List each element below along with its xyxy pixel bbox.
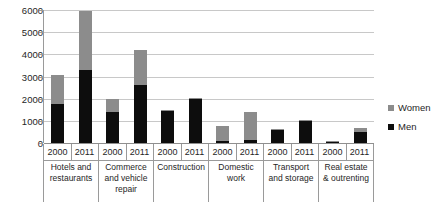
bar bbox=[271, 129, 284, 143]
bar bbox=[326, 141, 339, 143]
y-axis-tick-label: 3000 bbox=[7, 72, 43, 81]
category-column: 20002011Hotels and restaurants bbox=[44, 144, 99, 202]
bar-segment-men bbox=[299, 121, 312, 143]
legend-swatch-icon bbox=[388, 105, 394, 111]
bar-segment-men bbox=[326, 142, 339, 143]
bar-segment-men bbox=[79, 70, 92, 143]
year-label: 2011 bbox=[236, 144, 263, 160]
bar bbox=[51, 75, 64, 143]
year-label: 2000 bbox=[319, 144, 346, 160]
bar bbox=[161, 110, 174, 143]
bar-segment-men bbox=[134, 85, 147, 143]
year-row: 20002011 bbox=[44, 144, 98, 160]
bar bbox=[299, 120, 312, 143]
year-label: 2011 bbox=[126, 144, 153, 160]
bar-segment-women bbox=[216, 126, 229, 140]
year-row: 20002011 bbox=[99, 144, 153, 160]
year-row: 20002011 bbox=[154, 144, 208, 160]
category-label: Domestic work bbox=[210, 162, 262, 184]
category-column: 20002011Commerce and vehicle repair bbox=[99, 144, 154, 202]
year-label: 2000 bbox=[99, 144, 126, 160]
y-axis-tick-label: 0 bbox=[7, 139, 43, 148]
bar-segment-men bbox=[354, 132, 367, 143]
y-axis: 0100020003000400050006000 bbox=[0, 10, 43, 143]
year-row-divider bbox=[154, 160, 208, 161]
bar-segment-women bbox=[51, 75, 64, 104]
bar-segment-men bbox=[106, 112, 119, 143]
bar-segment-men bbox=[51, 104, 64, 143]
legend-label: Women bbox=[398, 103, 431, 113]
year-label: 2011 bbox=[291, 144, 318, 160]
category-column: 20002011Construction bbox=[154, 144, 209, 202]
bar bbox=[354, 128, 367, 143]
category-column: 20002011Real estate & outrenting bbox=[319, 144, 374, 202]
y-axis-tick-label: 1000 bbox=[7, 116, 43, 125]
bar-segment-women bbox=[106, 99, 119, 112]
year-row-divider bbox=[264, 160, 318, 161]
bars-layer bbox=[44, 10, 374, 143]
year-label: 2011 bbox=[346, 144, 373, 160]
year-row-divider bbox=[209, 160, 263, 161]
bar bbox=[134, 50, 147, 143]
y-axis-tick-label: 4000 bbox=[7, 50, 43, 59]
category-label: Real estate & outrenting bbox=[320, 162, 372, 184]
year-row: 20002011 bbox=[319, 144, 373, 160]
bar-segment-women bbox=[79, 11, 92, 70]
bar bbox=[244, 112, 257, 143]
bar bbox=[106, 99, 119, 143]
bar bbox=[189, 98, 202, 143]
year-row-divider bbox=[319, 160, 373, 161]
category-column: 20002011Transport and storage bbox=[264, 144, 319, 202]
year-row-divider bbox=[44, 160, 98, 161]
year-label: 2011 bbox=[181, 144, 208, 160]
plot-area bbox=[43, 10, 374, 143]
legend-item: Women bbox=[388, 100, 446, 116]
legend-item: Men bbox=[388, 119, 446, 135]
year-label: 2000 bbox=[209, 144, 236, 160]
legend-label: Men bbox=[398, 122, 416, 132]
bar-segment-men bbox=[161, 111, 174, 143]
y-axis-tick-label: 2000 bbox=[7, 94, 43, 103]
category-label: Transport and storage bbox=[265, 162, 317, 184]
category-column: 20002011Domestic work bbox=[209, 144, 264, 202]
bar-segment-men bbox=[216, 141, 229, 143]
category-label: Construction bbox=[155, 162, 207, 173]
bar-segment-men bbox=[244, 140, 257, 143]
category-axis-table: 20002011Hotels and restaurants20002011Co… bbox=[43, 144, 374, 202]
year-row: 20002011 bbox=[264, 144, 318, 160]
year-label: 2011 bbox=[71, 144, 98, 160]
bar-segment-men bbox=[189, 99, 202, 143]
y-axis-tick-label: 5000 bbox=[7, 28, 43, 37]
year-row: 20002011 bbox=[209, 144, 263, 160]
year-label: 2000 bbox=[264, 144, 291, 160]
bar bbox=[79, 11, 92, 143]
stacked-bar-chart: 0100020003000400050006000 20002011Hotels… bbox=[0, 0, 448, 206]
year-row-divider bbox=[99, 160, 153, 161]
chart-legend: WomenMen bbox=[388, 100, 446, 138]
bar-segment-women bbox=[244, 112, 257, 139]
bar-segment-women bbox=[134, 50, 147, 85]
bar bbox=[216, 126, 229, 143]
year-label: 2000 bbox=[44, 144, 71, 160]
year-label: 2000 bbox=[154, 144, 181, 160]
bar-segment-men bbox=[271, 130, 284, 143]
legend-swatch-icon bbox=[388, 124, 394, 130]
category-label: Commerce and vehicle repair bbox=[100, 162, 152, 195]
y-axis-tick-label: 6000 bbox=[7, 6, 43, 15]
category-label: Hotels and restaurants bbox=[45, 162, 97, 184]
